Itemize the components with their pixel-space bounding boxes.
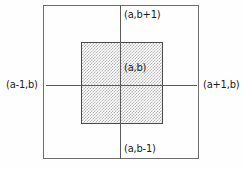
label-west: (a-1,b) [6, 79, 38, 91]
vertical-axis-line [120, 5, 121, 159]
label-center: (a,b) [124, 62, 146, 74]
lattice-neighbour-diagram: (a,b+1) (a,b-1) (a-1,b) (a+1,b) (a,b) [0, 0, 244, 169]
label-east: (a+1,b) [203, 79, 239, 91]
label-north: (a,b+1) [124, 9, 160, 21]
label-south: (a,b-1) [124, 143, 156, 155]
inner-shaded-square [81, 42, 163, 124]
horizontal-axis-line [46, 85, 197, 86]
